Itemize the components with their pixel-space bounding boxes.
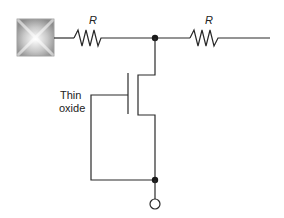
output-terminal-icon <box>150 199 160 209</box>
resistor-right-icon <box>190 30 227 46</box>
resistor-left-label: R <box>89 14 97 27</box>
circuit-svg <box>0 0 284 218</box>
thin-oxide-label-line2: oxide <box>59 102 85 115</box>
input-pad-icon <box>17 19 54 56</box>
resistor-right-label: R <box>205 14 213 27</box>
wire-gate <box>91 95 155 180</box>
resistor-left-icon <box>74 30 108 46</box>
circuit-diagram: R R Thin oxide <box>0 0 284 218</box>
thin-oxide-label-line1: Thin <box>60 89 81 102</box>
wire-drain <box>138 38 155 180</box>
